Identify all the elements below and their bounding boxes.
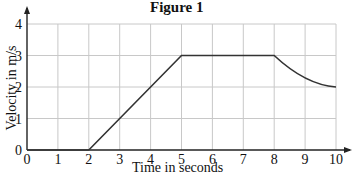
y-tick-label: 1 xyxy=(15,112,22,127)
x-tick-label: 0 xyxy=(24,152,31,167)
grid xyxy=(27,24,336,150)
x-tick-label: 1 xyxy=(54,152,61,167)
x-tick-label: 5 xyxy=(178,152,185,167)
x-tick-label: 2 xyxy=(85,152,92,167)
x-tick-label: 4 xyxy=(147,152,154,167)
x-tick-label: 7 xyxy=(240,152,247,167)
y-tick-label: 0 xyxy=(15,143,22,158)
y-tick-label: 2 xyxy=(15,80,22,95)
x-tick-label: 6 xyxy=(209,152,216,167)
x-tick-label: 10 xyxy=(329,152,343,167)
tick-labels: 01234567891001234 xyxy=(15,17,343,167)
plot-area: 01234567891001234 xyxy=(0,0,358,180)
y-axis-arrow-icon xyxy=(24,6,30,14)
x-axis-arrow-icon xyxy=(344,147,352,153)
axes xyxy=(24,6,352,153)
x-tick-label: 9 xyxy=(302,152,309,167)
y-tick-label: 4 xyxy=(15,17,22,32)
y-tick-label: 3 xyxy=(15,49,22,64)
x-tick-label: 8 xyxy=(271,152,278,167)
x-tick-label: 3 xyxy=(116,152,123,167)
